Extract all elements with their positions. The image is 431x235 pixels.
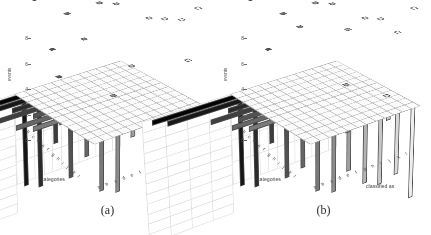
bar-face-top: [193, 6, 202, 9]
categories-tick-label: c: [247, 134, 252, 139]
bar-face-top: [360, 16, 369, 20]
bar-face-top: [295, 25, 304, 29]
categories-tick-label: a: [237, 125, 242, 131]
bar-face-top: [111, 2, 120, 5]
classified-tick-label: f: [354, 170, 358, 175]
classified-tick-label: d: [121, 175, 126, 181]
categories-tick-label: h: [56, 156, 61, 162]
classified-tick-label: f: [138, 170, 142, 175]
y-axis-tick-mark: [28, 64, 31, 65]
categories-tick-label: e: [41, 143, 46, 149]
subfigure-caption-b: (b): [216, 203, 431, 218]
bar-face-top: [327, 2, 336, 5]
classified-tick-label: j: [387, 158, 391, 162]
categories-tick-label: j: [282, 165, 286, 169]
y-axis-tick-mark: [28, 115, 31, 116]
classified-tick-label: e: [129, 172, 134, 178]
categories-tick-label: f: [46, 147, 50, 152]
categories-tick-label: l: [76, 174, 80, 178]
categories-tick-label: k: [287, 170, 292, 175]
bar-face-top: [63, 12, 72, 15]
classified-tick-label: d: [337, 175, 342, 181]
categories-tick-label: l: [292, 174, 296, 178]
bar-face-top: [144, 16, 153, 20]
classified-tick-label: a: [312, 184, 317, 190]
y-axis-title-b: events: [223, 68, 228, 82]
bar-face-top: [343, 28, 352, 32]
classified-axis-title-b: classified as: [366, 183, 394, 189]
bar-face-top: [183, 59, 192, 63]
categories-axis-title-a: categories: [41, 176, 65, 182]
categories-tick-label: b: [242, 129, 247, 135]
categories-tick-label: e: [257, 143, 262, 149]
bar-face-top: [30, 0, 39, 1]
y-axis-title-a: events: [7, 68, 12, 82]
bar-face-top: [176, 18, 185, 22]
categories-tick-label: c: [31, 134, 36, 139]
y-axis-tick-mark: [244, 38, 247, 39]
categories-tick-label: a: [21, 125, 26, 131]
floor-gridline: [120, 61, 204, 106]
bar-face-top: [376, 17, 385, 21]
categories-tick-label: d: [252, 138, 257, 144]
bar-face-top: [95, 1, 104, 4]
bar-face-top: [263, 47, 272, 51]
categories-tick-label: b: [26, 129, 31, 135]
classified-tick-label: b: [104, 181, 109, 187]
bar-face-top: [246, 0, 255, 1]
classified-tick-label: k: [396, 154, 401, 159]
categories-axis-title-b: categories: [257, 176, 281, 182]
categories-tick-label: i: [61, 161, 65, 165]
y-axis-tick-mark: [244, 64, 247, 65]
y-axis-tick-mark: [244, 89, 247, 90]
bar-face-top: [409, 6, 418, 9]
bar-face-top: [279, 12, 288, 15]
bar-face-top: [79, 37, 88, 41]
categories-tick-label: j: [66, 165, 70, 169]
categories-tick-label: g: [51, 152, 56, 158]
figure-container: 02468 events abcdefghijkl abcdefghijkl c…: [0, 0, 431, 235]
categories-tick-label: d: [36, 138, 41, 144]
classified-tick-label: b: [320, 181, 325, 187]
classified-tick-label: l: [404, 152, 408, 156]
categories-tick-label: f: [262, 147, 266, 152]
classified-tick-label: c: [329, 178, 334, 183]
subfigure-b: 02468 events abcdefghijkl abcdefghijkl c…: [216, 0, 431, 235]
classified-tick-label: a: [96, 184, 101, 190]
bar-face-top: [392, 30, 401, 34]
y-axis-tick-mark: [244, 115, 247, 116]
bar-face-top: [160, 17, 169, 21]
bar-face-top: [47, 47, 56, 51]
categories-tick-label: k: [71, 170, 76, 175]
y-axis-tick-mark: [28, 38, 31, 39]
plot-area-b: 02468 events abcdefghijkl abcdefghijkl c…: [216, 0, 431, 200]
classified-tick-label: g: [362, 166, 367, 172]
classified-tick-label: h: [370, 163, 375, 169]
categories-tick-label: g: [267, 152, 272, 158]
classified-tick-label: i: [379, 161, 383, 165]
classified-tick-label: e: [345, 172, 350, 178]
bar-face-top: [311, 1, 320, 4]
categories-tick-label: i: [277, 161, 281, 165]
classified-tick-label: c: [113, 178, 118, 183]
categories-tick-label: h: [272, 156, 277, 162]
y-axis-tick-mark: [28, 89, 31, 90]
